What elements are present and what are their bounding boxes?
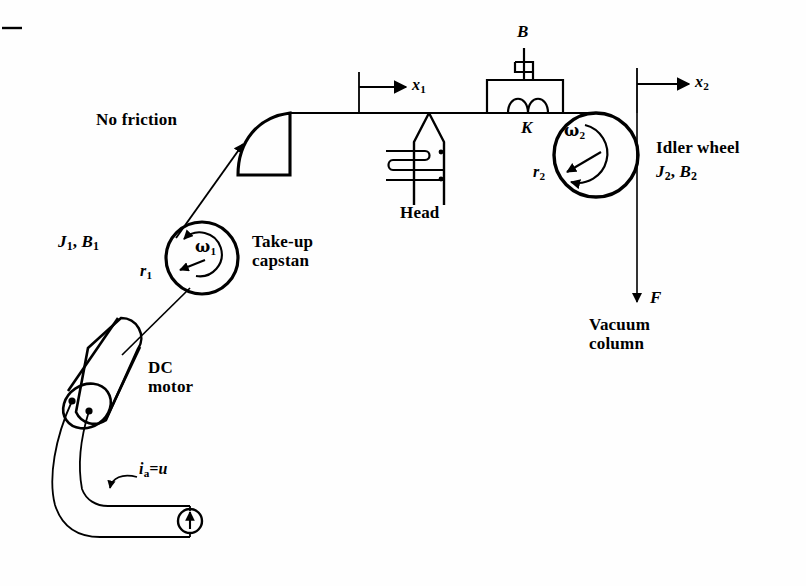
idler-comma: , <box>671 162 680 181</box>
motor-wiring <box>52 401 190 537</box>
damper-spring-assembly <box>487 48 563 113</box>
capstan-omega-label: ω1 <box>195 238 216 257</box>
omega2-subscript: 2 <box>579 129 585 141</box>
take-up-capstan <box>166 222 238 294</box>
capstan-B-subscript: 1 <box>93 239 99 253</box>
vacuum-column-label: Vacuum column <box>589 315 650 353</box>
idler-radius-label: r2 <box>533 163 545 182</box>
armature-current-arrow <box>110 476 137 488</box>
head-label: Head <box>400 203 440 222</box>
current-source <box>178 506 202 537</box>
x2-measurement <box>637 68 689 113</box>
figure-canvas: No friction J1, B1 r1 ω1 Take-up capstan… <box>0 0 806 586</box>
capstan-J-symbol: J <box>58 232 67 251</box>
idler-wheel-label: Idler wheel <box>656 138 740 157</box>
r1-subscript: 1 <box>146 269 152 281</box>
idler-inertia-damping-label: J2, B2 <box>656 162 697 183</box>
x2-symbol: x <box>695 73 703 90</box>
capstan-inertia-damping-label: J1, B1 <box>58 232 99 253</box>
force-F-label: F <box>650 288 662 307</box>
capstan-B-symbol: B <box>82 232 94 251</box>
r2-subscript: 2 <box>539 170 545 182</box>
dc-motor-line2: motor <box>148 377 193 396</box>
dc-motor-label: DC motor <box>148 358 193 396</box>
x1-label: x1 <box>412 76 426 95</box>
tape-drive-schematic <box>0 0 806 586</box>
capstan-radius-label: r1 <box>140 262 152 281</box>
damper-B-label: B <box>517 22 529 41</box>
x2-label: x2 <box>695 73 709 92</box>
idler-J-symbol: J <box>656 162 665 181</box>
take-up-capstan-line1: Take-up <box>252 232 313 251</box>
vacuum-column-line1: Vacuum <box>589 315 650 334</box>
armature-current-label: ia=u <box>139 460 168 479</box>
omega2-symbol: ω <box>564 121 579 140</box>
dc-motor-line1: DC <box>148 358 193 377</box>
x1-subscript: 1 <box>420 83 426 95</box>
take-up-capstan-line2: capstan <box>252 251 313 270</box>
capstan-comma: , <box>73 232 82 251</box>
idler-B-subscript: 2 <box>691 169 697 183</box>
x1-symbol: x <box>412 76 420 93</box>
dc-motor <box>55 318 142 437</box>
idler-B-symbol: B <box>680 162 692 181</box>
friction-free-guide <box>238 113 290 175</box>
vacuum-column-line2: column <box>589 334 650 353</box>
ia-equation: =u <box>149 460 167 477</box>
tape-head <box>386 113 444 205</box>
x2-subscript: 2 <box>703 80 709 92</box>
omega1-subscript: 1 <box>210 245 216 257</box>
take-up-capstan-label: Take-up capstan <box>252 232 313 270</box>
omega1-symbol: ω <box>195 237 210 256</box>
spring-K-label: K <box>521 118 533 137</box>
x1-measurement <box>359 72 406 113</box>
no-friction-label: No friction <box>96 110 177 129</box>
idler-omega-label: ω2 <box>564 122 585 141</box>
